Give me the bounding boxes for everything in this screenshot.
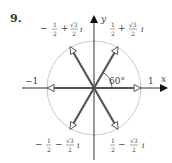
angle-label: 60° xyxy=(109,76,125,86)
svg-text:2: 2 xyxy=(111,146,115,153)
svg-text:2: 2 xyxy=(111,30,115,37)
svg-text:√3: √3 xyxy=(66,137,74,144)
roots-of-unity-diagram: 60° x y 1 −1 − 1 2 + √3 2 i 1 2 + √3 2 i… xyxy=(0,0,172,163)
label-lower-left: − 1 2 − √3 2 i xyxy=(35,137,80,153)
arrowhead-icon xyxy=(70,47,77,55)
svg-text:−: − xyxy=(40,23,48,33)
svg-text:+: + xyxy=(118,23,126,33)
arrowhead-icon xyxy=(47,85,54,92)
svg-text:1: 1 xyxy=(47,137,51,144)
svg-text:−: − xyxy=(35,139,43,149)
label-1: 1 xyxy=(148,76,154,86)
svg-text:2: 2 xyxy=(72,30,76,37)
svg-text:i: i xyxy=(142,141,145,150)
svg-text:+: + xyxy=(61,23,69,33)
svg-text:−: − xyxy=(55,139,63,149)
svg-text:1: 1 xyxy=(111,137,115,144)
y-axis-arrow-icon xyxy=(90,15,98,23)
svg-text:i: i xyxy=(77,141,80,150)
vector-lower-right xyxy=(94,88,116,126)
svg-text:2: 2 xyxy=(68,146,72,153)
arrowhead-icon xyxy=(112,47,119,55)
label-upper-left: − 1 2 + √3 2 i xyxy=(40,21,83,37)
label-lower-right: 1 2 − √3 2 i xyxy=(110,137,145,153)
x-axis-arrow-icon xyxy=(160,84,168,92)
svg-text:2: 2 xyxy=(47,146,51,153)
svg-text:2: 2 xyxy=(131,30,135,37)
arrowhead-icon xyxy=(112,122,119,130)
label-neg1: −1 xyxy=(25,76,38,86)
svg-text:i: i xyxy=(80,25,83,34)
vector-lower-left xyxy=(72,88,94,126)
svg-text:√3: √3 xyxy=(129,21,137,28)
arrowhead-icon xyxy=(134,85,141,92)
svg-text:1: 1 xyxy=(111,21,115,28)
svg-text:1: 1 xyxy=(53,21,57,28)
arrowhead-icon xyxy=(70,122,77,130)
label-upper-right: 1 2 + √3 2 i xyxy=(110,21,144,37)
svg-text:−: − xyxy=(118,139,126,149)
svg-text:√3: √3 xyxy=(130,137,138,144)
y-axis-label: y xyxy=(100,14,107,24)
x-axis-label: x xyxy=(161,74,166,84)
svg-text:√3: √3 xyxy=(70,21,78,28)
svg-text:2: 2 xyxy=(132,146,136,153)
svg-text:2: 2 xyxy=(53,30,57,37)
svg-text:i: i xyxy=(141,25,144,34)
vector-upper-left xyxy=(72,50,94,88)
